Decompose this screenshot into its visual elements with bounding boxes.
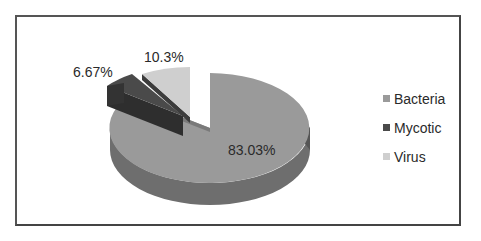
legend-label: Bacteria (394, 91, 445, 107)
data-label-virus: 10.3% (144, 49, 184, 65)
legend-label: Virus (394, 149, 426, 165)
data-label-bacteria: 83.03% (228, 142, 275, 158)
legend: Bacteria Mycotic Virus (383, 84, 445, 171)
legend-item-virus: Virus (383, 142, 445, 171)
legend-item-mycotic: Mycotic (383, 113, 445, 142)
legend-swatch-bacteria (383, 95, 390, 102)
legend-item-bacteria: Bacteria (383, 84, 445, 113)
legend-label: Mycotic (394, 120, 441, 136)
data-label-mycotic: 6.67% (73, 64, 113, 80)
legend-swatch-virus (383, 153, 390, 160)
legend-swatch-mycotic (383, 124, 390, 131)
